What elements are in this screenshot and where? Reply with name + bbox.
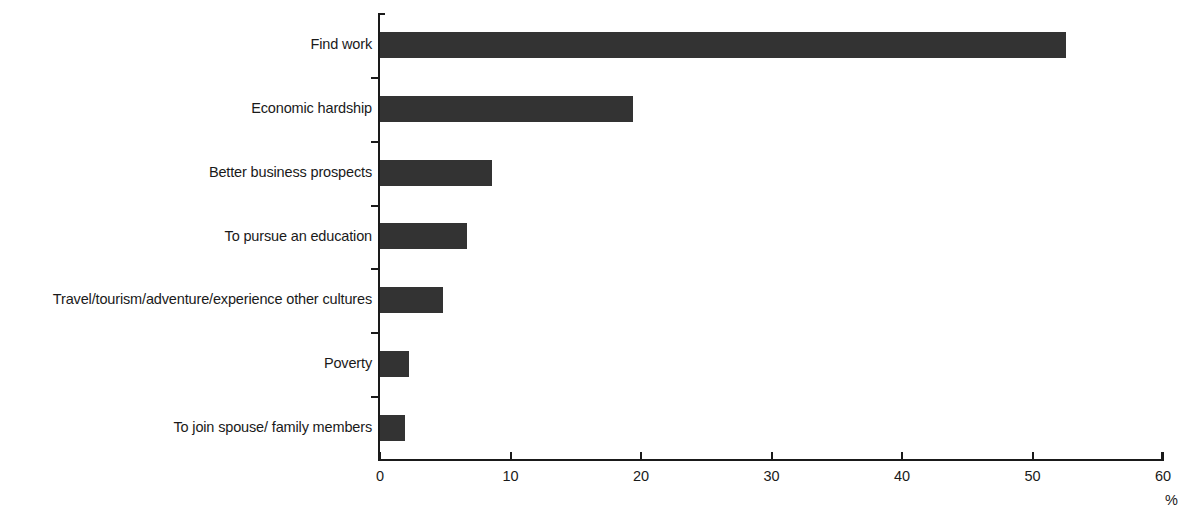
x-axis-tick-label: 40 [872, 468, 932, 484]
y-axis-tick [371, 396, 379, 398]
x-axis-tick [1162, 452, 1164, 460]
x-axis-unit-label: % [1152, 492, 1178, 508]
y-axis-tick [371, 332, 379, 334]
category-label: Find work [311, 13, 373, 77]
category-row: Find work [0, 13, 1181, 77]
category-row: To pursue an education [0, 205, 1181, 269]
category-row: Better business prospects [0, 141, 1181, 205]
category-label: Better business prospects [209, 141, 372, 205]
x-axis-tick-label: 0 [350, 468, 410, 484]
bar [380, 160, 492, 186]
x-axis-tick-label: 10 [481, 468, 541, 484]
x-axis-tick-label: 50 [1003, 468, 1063, 484]
bar-chart: Find workEconomic hardshipBetter busines… [0, 0, 1181, 519]
x-axis-tick [1032, 452, 1034, 460]
bar [380, 287, 443, 313]
category-label: To join spouse/ family members [173, 396, 372, 460]
category-label: Economic hardship [251, 77, 372, 141]
x-axis-tick-label: 60 [1133, 468, 1181, 484]
category-label: To pursue an education [225, 205, 372, 269]
category-label: Poverty [324, 332, 372, 396]
x-axis-tick [771, 452, 773, 460]
category-row: To join spouse/ family members [0, 396, 1181, 460]
category-row: Travel/tourism/adventure/experience othe… [0, 268, 1181, 332]
bar [380, 223, 467, 249]
bar [380, 32, 1066, 58]
y-axis-tick [371, 141, 379, 143]
y-axis-tick [371, 268, 379, 270]
x-axis-tick [640, 452, 642, 460]
category-row: Poverty [0, 332, 1181, 396]
bar [380, 415, 405, 441]
bar [380, 96, 633, 122]
y-axis-tick [371, 77, 379, 79]
y-axis-tick [371, 205, 379, 207]
x-axis-tick-label: 30 [742, 468, 802, 484]
x-axis-tick [901, 452, 903, 460]
category-row: Economic hardship [0, 77, 1181, 141]
x-axis-tick [379, 452, 381, 460]
x-axis-tick-label: 20 [611, 468, 671, 484]
x-axis-tick [510, 452, 512, 460]
category-label: Travel/tourism/adventure/experience othe… [53, 268, 372, 332]
bar [380, 351, 409, 377]
